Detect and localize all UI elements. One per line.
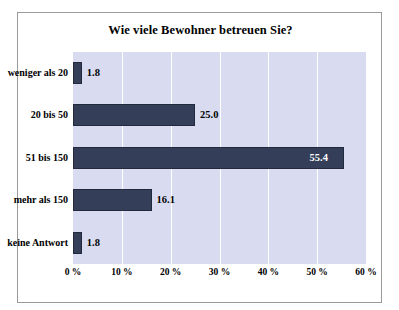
bar[interactable] <box>73 232 82 254</box>
x-axis-tick-label: 10 % <box>111 267 132 277</box>
bar-value-label: 1.8 <box>87 62 100 84</box>
bar-row: 1.8 <box>73 222 366 264</box>
bar[interactable] <box>73 189 152 211</box>
gridline <box>366 52 367 264</box>
category-label: keine Antwort <box>7 232 73 254</box>
category-axis: weniger als 2020 bis 5051 bis 150mehr al… <box>18 52 73 264</box>
bar[interactable] <box>73 147 344 169</box>
category-label: mehr als 150 <box>14 189 73 211</box>
x-axis-tick-label: 40 % <box>258 267 279 277</box>
bar-value-label: 25.0 <box>200 104 218 126</box>
bar-value-label: 1.8 <box>87 232 100 254</box>
x-axis-tick-label: 60 % <box>355 267 376 277</box>
chart-frame: Wie viele Bewohner betreuen Sie? weniger… <box>17 12 382 303</box>
bar-row: 55.4 <box>73 137 366 179</box>
category-label: 51 bis 150 <box>26 147 73 169</box>
x-axis-tick-label: 30 % <box>209 267 230 277</box>
bar-value-label: 55.4 <box>310 147 328 169</box>
bar-value-label: 16.1 <box>157 189 175 211</box>
x-axis: 0 %10 %20 %30 %40 %50 %60 % <box>73 267 366 283</box>
bar[interactable] <box>73 62 82 84</box>
bar-row: 25.0 <box>73 94 366 136</box>
plot-area: 1.825.055.416.11.8 <box>73 52 366 264</box>
bar[interactable] <box>73 104 195 126</box>
x-axis-tick-label: 20 % <box>160 267 181 277</box>
category-label: weniger als 20 <box>8 62 73 84</box>
category-label: 20 bis 50 <box>31 104 73 126</box>
x-axis-tick-label: 50 % <box>306 267 327 277</box>
bar-row: 1.8 <box>73 52 366 94</box>
x-axis-tick-label: 0 % <box>65 267 82 277</box>
bar-row: 16.1 <box>73 179 366 221</box>
chart-title: Wie viele Bewohner betreuen Sie? <box>18 23 383 38</box>
